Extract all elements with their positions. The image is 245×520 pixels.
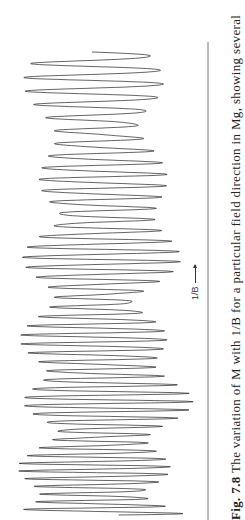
caption-text: The variation of M with 1/B for a partic…: [228, 15, 243, 473]
figure-caption: Fig. 7.8 The variation of M with 1/B for…: [228, 0, 244, 520]
figure-number: Fig. 7.8: [228, 476, 243, 520]
x-axis-label: 1/B: [190, 265, 200, 300]
figure: 1/B Fig. 7.8 The variation of M with 1/B…: [0, 0, 245, 520]
oscillation-plot: [0, 0, 245, 520]
arrow-icon: [195, 265, 196, 283]
magnetization-curve: [19, 52, 193, 515]
